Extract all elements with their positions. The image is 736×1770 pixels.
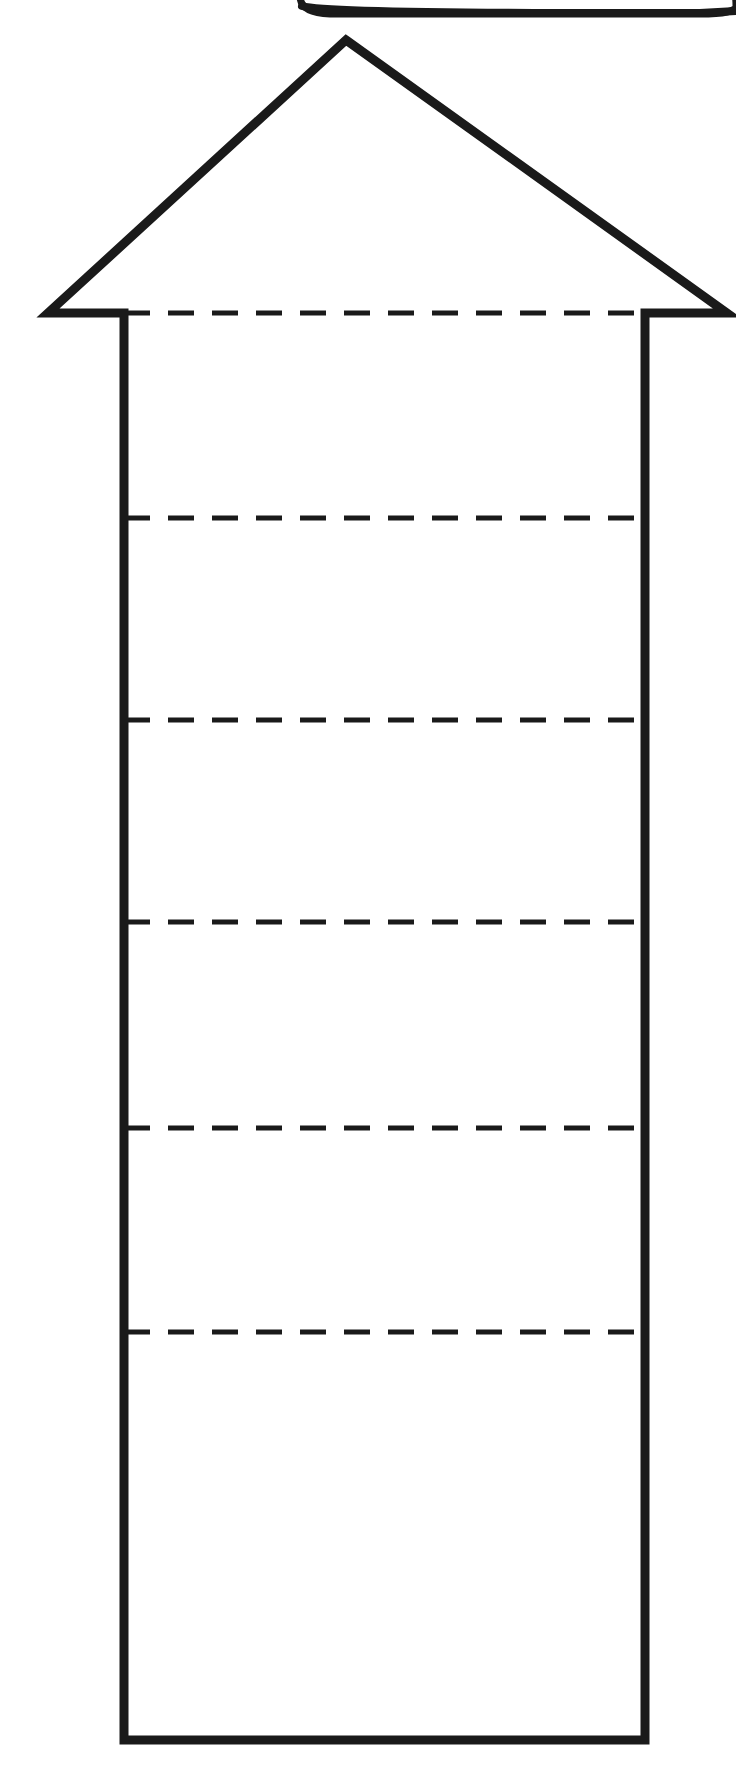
block-arrow xyxy=(48,40,727,1740)
arrow-template-diagram xyxy=(0,0,736,1770)
page-canvas xyxy=(0,0,736,1770)
block-arrow-outline xyxy=(48,40,727,1740)
